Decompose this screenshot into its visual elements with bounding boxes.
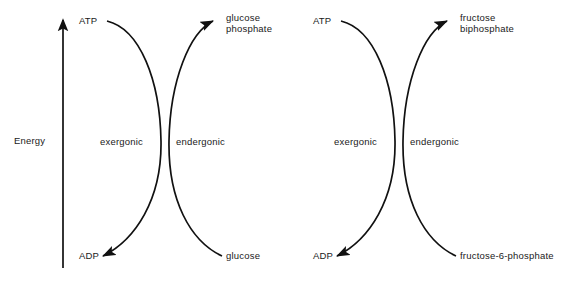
left-endergonic-label: endergonic — [176, 136, 225, 147]
right-atp-label: ATP — [313, 15, 331, 26]
right-adp-label: ADP — [313, 250, 333, 261]
left-atp-label: ATP — [79, 15, 97, 26]
right-product-label: fructose biphosphate — [460, 12, 514, 34]
left-product-label: glucose phosphate — [226, 12, 272, 34]
left-reactant-label: glucose — [226, 250, 260, 261]
left-exergonic-label: exergonic — [100, 136, 143, 147]
coupled-reaction-diagram — [0, 0, 568, 286]
energy-axis-label: Energy — [14, 135, 45, 146]
right-reactant-label: fructose-6-phosphate — [460, 250, 554, 261]
right-exergonic-label: exergonic — [334, 136, 377, 147]
left-adp-label: ADP — [79, 250, 99, 261]
right-endergonic-label: endergonic — [410, 136, 459, 147]
